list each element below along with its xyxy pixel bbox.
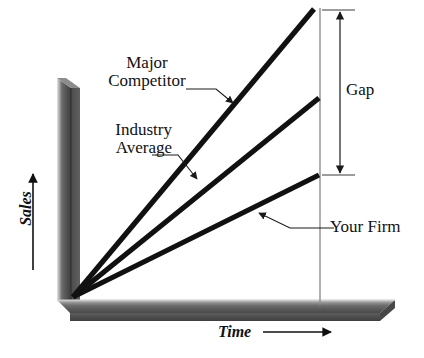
callout-label-major-competitor: Major Competitor <box>90 54 204 90</box>
callout-label-major-competitor-line2: Competitor <box>90 72 204 90</box>
callout-label-major-competitor-line1: Major <box>90 54 204 72</box>
callout-label-industry-average-line1: Industry <box>62 121 172 139</box>
y-axis-label: Sales <box>18 173 35 243</box>
diagram-canvas <box>0 0 424 358</box>
x-axis-label: Time <box>218 324 251 341</box>
sales-gap-diagram: Major Competitor Industry Average Your F… <box>0 0 424 358</box>
y-axis-slab <box>57 78 80 300</box>
callout-label-industry-average: Industry Average <box>62 121 172 157</box>
leader-major-competitor <box>186 89 233 103</box>
callout-label-your-firm: Your Firm <box>330 218 401 236</box>
callout-label-industry-average-line2: Average <box>62 139 172 157</box>
leader-your-firm <box>259 213 334 228</box>
trendline-your-firm <box>73 175 319 297</box>
x-axis-slab <box>57 300 395 321</box>
gap-label: Gap <box>346 81 374 99</box>
